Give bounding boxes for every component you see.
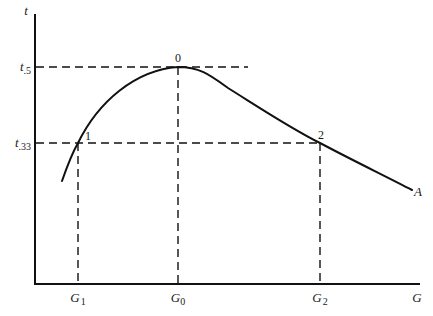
g1-label-sub: 1 bbox=[81, 296, 86, 307]
g0-label: G0 bbox=[171, 290, 185, 307]
g1-label-main: G bbox=[70, 290, 80, 305]
point-0-label: 0 bbox=[175, 51, 181, 65]
g2-label-main: G bbox=[312, 290, 322, 305]
g2-label-sub: 2 bbox=[323, 296, 328, 307]
t5-label-sub: .5 bbox=[24, 65, 32, 76]
t5-label: t.5 bbox=[20, 59, 31, 76]
x-axis-label: G bbox=[412, 290, 422, 305]
g1-label: G1 bbox=[70, 290, 85, 307]
g0-label-sub: 0 bbox=[180, 296, 185, 307]
point-1-label: 1 bbox=[85, 129, 91, 143]
curve-a bbox=[62, 67, 412, 190]
t33-label: t.33 bbox=[15, 135, 31, 152]
curve-a-label: A bbox=[413, 184, 422, 199]
y-axis-label: t bbox=[24, 3, 28, 18]
g2-label: G2 bbox=[312, 290, 327, 307]
point-2-label: 2 bbox=[318, 128, 324, 142]
diagram-canvas: t t.5 t.33 G1 G0 G2 G 0 1 2 A bbox=[0, 0, 433, 316]
t33-label-sub: .33 bbox=[19, 141, 32, 152]
